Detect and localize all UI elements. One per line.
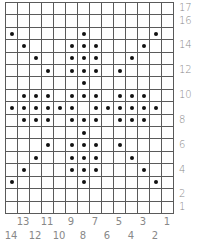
row-label: 10: [179, 90, 192, 100]
stitch-cell: [137, 201, 149, 213]
stitch-cell: [65, 2, 77, 14]
stitch-cell: [41, 39, 53, 51]
stitch-cell: [149, 126, 161, 138]
stitch-cell: [137, 27, 149, 39]
stitch-dot-cell: [113, 89, 125, 101]
stitch-cell: [149, 151, 161, 163]
stitch-cell: [149, 76, 161, 88]
stitch-cell: [65, 201, 77, 213]
stitch-cell: [29, 64, 41, 76]
stitch-cell: [89, 27, 101, 39]
stitch-dot-cell: [113, 101, 125, 113]
stitch-cell: [41, 27, 53, 39]
stitch-dot-cell: [77, 126, 89, 138]
stitch-dot-cell: [65, 114, 77, 126]
stitch-cell: [29, 27, 41, 39]
stitch-cell: [53, 52, 65, 64]
stitch-dot-cell: [29, 151, 41, 163]
stitch-cell: [17, 76, 29, 88]
stitch-cell: [149, 188, 161, 200]
stitch-dot-cell: [89, 151, 101, 163]
stitch-cell: [161, 14, 173, 26]
stitch-cell: [161, 138, 173, 150]
stitch-cell: [137, 151, 149, 163]
stitch-cell: [41, 188, 53, 200]
stitch-cell: [17, 126, 29, 138]
stitch-cell: [125, 188, 137, 200]
stitch-cell: [125, 201, 137, 213]
stitch-cell: [161, 201, 173, 213]
stitch-cell: [137, 64, 149, 76]
stitch-cell: [5, 163, 17, 175]
stitch-cell: [17, 27, 29, 39]
stitch-cell: [161, 89, 173, 101]
stitch-cell: [53, 188, 65, 200]
stitch-cell: [77, 188, 89, 200]
stitch-cell: [17, 2, 29, 14]
stitch-cell: [29, 2, 41, 14]
stitch-dot-cell: [5, 101, 17, 113]
stitch-dot-cell: [77, 176, 89, 188]
stitch-cell: [41, 14, 53, 26]
stitch-cell: [41, 163, 53, 175]
stitch-cell: [17, 176, 29, 188]
stitch-cell: [101, 201, 113, 213]
stitch-dot-cell: [149, 176, 161, 188]
stitch-cell: [125, 14, 137, 26]
stitch-cell: [5, 76, 17, 88]
stitch-cell: [149, 89, 161, 101]
stitch-dot-cell: [89, 114, 101, 126]
stitch-cell: [137, 176, 149, 188]
stitch-dot-cell: [29, 89, 41, 101]
stitch-cell: [149, 2, 161, 14]
column-label: 12: [25, 231, 45, 241]
stitch-dot-cell: [149, 27, 161, 39]
stitch-cell: [161, 176, 173, 188]
stitch-cell: [5, 2, 17, 14]
stitch-cell: [125, 27, 137, 39]
stitch-cell: [29, 188, 41, 200]
stitch-cell: [161, 52, 173, 64]
stitch-dot-cell: [125, 151, 137, 163]
stitch-cell: [77, 101, 89, 113]
stitch-cell: [161, 39, 173, 51]
stitch-cell: [125, 2, 137, 14]
stitch-cell: [137, 138, 149, 150]
stitch-cell: [17, 64, 29, 76]
row-label: 14: [179, 40, 192, 50]
stitch-cell: [29, 138, 41, 150]
stitch-cell: [137, 188, 149, 200]
stitch-dot-cell: [41, 64, 53, 76]
column-label: 7: [85, 217, 105, 227]
stitch-cell: [5, 201, 17, 213]
stitch-cell: [41, 126, 53, 138]
stitch-cell: [149, 39, 161, 51]
stitch-dot-cell: [65, 39, 77, 51]
stitch-cell: [125, 176, 137, 188]
stitch-cell: [77, 2, 89, 14]
stitch-cell: [113, 2, 125, 14]
stitch-cell: [113, 14, 125, 26]
stitch-cell: [17, 188, 29, 200]
stitch-cell: [161, 163, 173, 175]
stitch-cell: [53, 163, 65, 175]
stitch-cell: [137, 76, 149, 88]
stitch-cell: [161, 188, 173, 200]
stitch-cell: [53, 76, 65, 88]
stitch-dot-cell: [17, 163, 29, 175]
stitch-dot-cell: [77, 39, 89, 51]
stitch-dot-cell: [77, 163, 89, 175]
stitch-cell: [113, 151, 125, 163]
stitch-dot-cell: [77, 114, 89, 126]
row-label: 2: [179, 189, 185, 199]
stitch-dot-cell: [29, 101, 41, 113]
stitch-dot-cell: [125, 101, 137, 113]
stitch-dot-cell: [77, 52, 89, 64]
stitch-cell: [89, 126, 101, 138]
stitch-cell: [5, 39, 17, 51]
stitch-dot-cell: [41, 138, 53, 150]
knitting-chart: [5, 2, 173, 213]
stitch-cell: [113, 27, 125, 39]
stitch-cell: [5, 114, 17, 126]
stitch-cell: [137, 2, 149, 14]
